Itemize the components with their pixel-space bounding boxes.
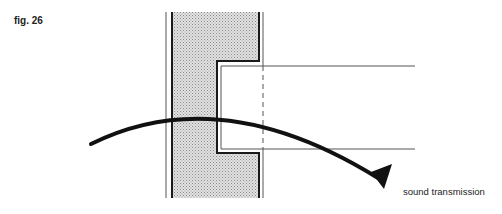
wall-section xyxy=(172,12,259,198)
sound-transmission-label: sound transmission xyxy=(403,186,485,197)
wall-section-diagram xyxy=(0,0,502,214)
box-inner-outline xyxy=(221,66,415,149)
